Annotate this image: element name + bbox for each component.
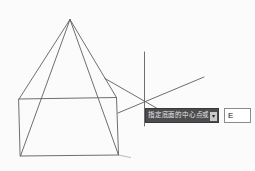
pyramid-edge-front-left [21,20,71,157]
pyramid-base [19,98,119,157]
base-edge-overshoot [119,155,131,158]
pyramid-edge-back-right [70,20,117,98]
dynamic-input-prompt: 指定底面的中心点或 [148,112,209,119]
down-arrow-icon: ▾ [210,112,217,121]
command-input-field[interactable]: E [224,108,251,123]
wireframe-canvas [0,0,255,171]
pyramid-wireframe [19,20,131,158]
cad-drawing-area: 指定底面的中心点或 ▾ E [0,0,255,171]
dynamic-input-tooltip: 指定底面的中心点或 ▾ [145,108,219,123]
pyramid-edge-front-right [70,20,119,156]
pyramid-edge-back-left [19,20,70,100]
command-input-value: E [225,112,233,120]
line-work [19,20,204,158]
